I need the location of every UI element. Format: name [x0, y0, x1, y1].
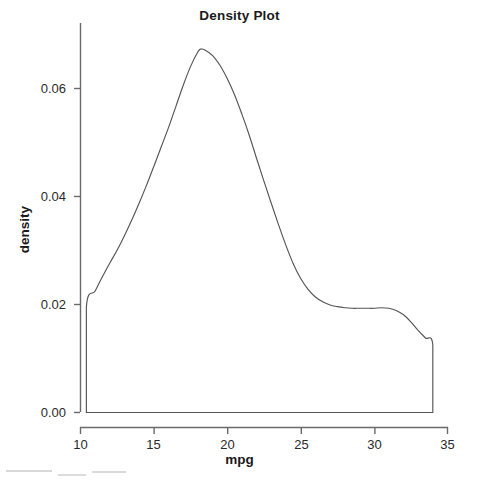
x-tick-label-2: 20: [207, 437, 248, 452]
x-tick-label-1: 15: [133, 437, 174, 452]
scan-artifact: [58, 474, 86, 476]
x-tick-label-5: 35: [427, 437, 468, 452]
x-tick-label-3: 25: [281, 437, 322, 452]
plot-canvas: [0, 0, 479, 491]
y-tick-label-1: 0.02: [8, 297, 66, 312]
density-plot-figure: Density Plot 0.00 0.02 0.04 0.06 10 15: [0, 0, 479, 491]
x-tick-label-4: 30: [354, 437, 395, 452]
y-tick-label-0: 0.00: [8, 405, 66, 420]
y-axis-ticks: [74, 89, 80, 413]
y-axis-label: density: [17, 180, 32, 280]
scan-artifact: [6, 470, 52, 472]
density-curve: [86, 49, 432, 413]
x-tick-label-0: 10: [60, 437, 101, 452]
x-axis-label: mpg: [0, 452, 479, 467]
y-tick-label-3: 0.06: [8, 81, 66, 96]
scan-artifact: [92, 471, 126, 473]
